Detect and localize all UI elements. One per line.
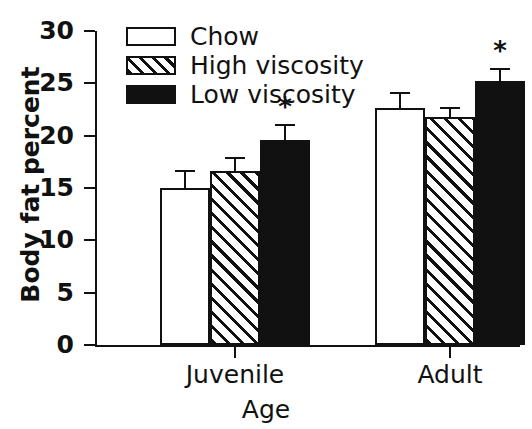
x-tick-mark (234, 347, 236, 358)
x-tick-label: Adult (350, 362, 532, 387)
x-axis-title: Age (0, 395, 532, 424)
error-bar-cap (175, 170, 195, 172)
bar-juvenile-chow (160, 188, 210, 345)
y-tick-label: 0 (18, 332, 74, 357)
legend-item: Chow (126, 22, 364, 51)
y-tick-mark (84, 344, 95, 346)
error-bar-stem (399, 92, 401, 109)
error-bar-cap (440, 107, 460, 109)
y-tick-mark (84, 135, 95, 137)
error-bar-cap (390, 92, 410, 94)
significance-marker: * (265, 94, 305, 120)
x-tick-mark (449, 347, 451, 358)
bar-adult-chow (375, 108, 425, 345)
error-bar-stem (499, 68, 501, 82)
x-axis-line (95, 345, 520, 347)
bar-adult-high-viscosity (425, 117, 475, 345)
hatched-swatch (126, 56, 176, 75)
legend-label: High viscosity (190, 53, 364, 78)
error-bar-cap (275, 124, 295, 126)
y-tick-mark (84, 82, 95, 84)
legend-label: Chow (190, 24, 259, 49)
black-swatch (126, 85, 176, 104)
legend-item: High viscosity (126, 51, 364, 80)
significance-marker: * (480, 38, 520, 64)
error-bar-cap (225, 157, 245, 159)
bar-juvenile-high-viscosity (210, 171, 260, 345)
y-tick-mark (84, 30, 95, 32)
error-bar-stem (184, 170, 186, 188)
y-tick-mark (84, 187, 95, 189)
chart-legend: ChowHigh viscosityLow viscosity (126, 22, 364, 109)
error-bar-stem (234, 157, 236, 172)
error-bar-cap (490, 68, 510, 70)
white-swatch (126, 27, 176, 46)
y-axis-title: Body fat percent (16, 35, 45, 335)
y-tick-mark (84, 292, 95, 294)
bar-juvenile-low-viscosity (260, 140, 310, 345)
legend-item: Low viscosity (126, 80, 364, 109)
bar-chart-figure: 051015202530 Body fat percent JuvenileAd… (0, 0, 532, 429)
x-tick-label: Juvenile (135, 362, 335, 387)
y-tick-mark (84, 239, 95, 241)
error-bar-stem (284, 124, 286, 140)
bar-adult-low-viscosity (475, 81, 525, 345)
